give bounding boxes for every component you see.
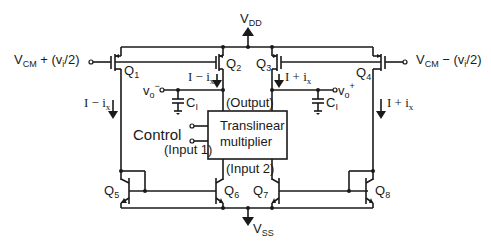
input-right-label: VCM − (vi/2)	[416, 53, 482, 69]
vo-plus-label: vo+	[338, 82, 355, 100]
vo-plus-terminal	[333, 88, 337, 92]
current-left-inner: I − ix	[188, 70, 214, 86]
q3-label: Q3	[256, 57, 271, 73]
control-label: Control	[133, 127, 181, 142]
input1-port-label: (Input 1)	[164, 143, 212, 156]
current-right-outer: I + ix	[387, 96, 413, 112]
current-right-inner: I + ix	[285, 70, 311, 86]
cap-left-label: CI	[186, 96, 198, 112]
q5-label: Q5	[104, 184, 119, 200]
input-terminal-right	[403, 60, 407, 64]
vss-label: VSS	[253, 222, 274, 238]
output-port-label: (Output)	[226, 96, 274, 109]
control-terminal	[190, 124, 194, 128]
current-left-outer: I − ix	[84, 96, 110, 112]
block-title: Translinearmultiplier	[220, 118, 285, 150]
input-left-label: VCM + (vi/2)	[14, 53, 80, 69]
vo-minus-terminal	[160, 88, 164, 92]
q2-label: Q2	[226, 57, 241, 73]
cap-right-label: CI	[326, 96, 338, 112]
q6-label: Q6	[224, 184, 239, 200]
q4-label: Q4	[356, 66, 371, 82]
input2-port-label: (Input 2)	[226, 162, 274, 175]
vo-minus-label: vo−	[143, 82, 160, 100]
q1-label: Q1	[124, 64, 139, 80]
q7-label: Q7	[253, 184, 268, 200]
q8-label: Q8	[375, 184, 390, 200]
input-terminal-left	[89, 60, 93, 64]
vdd-label: VDD	[240, 12, 262, 28]
